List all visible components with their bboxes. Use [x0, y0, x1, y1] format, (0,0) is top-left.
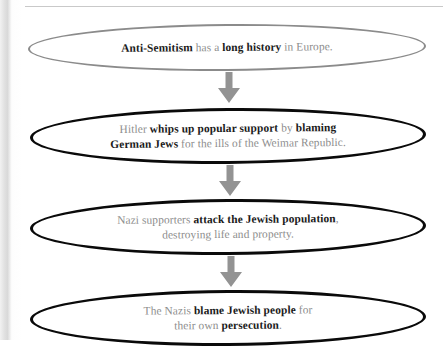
flowchart-node-4-text: The Nazis blame Jewish people fortheir o… — [144, 303, 313, 333]
arrow-down-icon — [214, 72, 244, 104]
page-gutter-edge — [12, 0, 22, 340]
flowchart-node-3-text: Nazi supporters attack the Jewish popula… — [117, 212, 339, 243]
flowchart-node-1: Anti-Semitism has a long history in Euro… — [28, 22, 426, 72]
flowchart-node-2: Hitler whips up popular support by blami… — [30, 106, 426, 165]
flowchart-node-1-text: Anti-Semitism has a long history in Euro… — [121, 39, 333, 55]
arrow-down-icon — [215, 165, 245, 197]
arrow-down-icon — [216, 256, 246, 288]
flowchart-node-4: The Nazis blame Jewish people fortheir o… — [30, 289, 426, 348]
flowchart-canvas: Anti-Semitism has a long history in Euro… — [0, 0, 445, 355]
page-gutter-shadow — [0, 0, 12, 340]
top-horizontal-rule — [25, 6, 443, 7]
flowchart-node-2-text: Hitler whips up popular support by blami… — [110, 120, 346, 151]
flowchart-node-3: Nazi supporters attack the Jewish popula… — [30, 197, 426, 256]
